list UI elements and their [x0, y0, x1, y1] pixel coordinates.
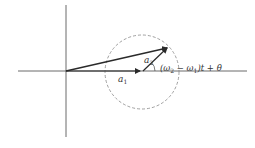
label-a1: a1: [118, 75, 127, 85]
label-a2: a2: [144, 56, 153, 66]
phasor-diagram-canvas: [0, 0, 255, 148]
label-phase-angle: (ω2 − ω1)t + θ: [160, 64, 222, 74]
